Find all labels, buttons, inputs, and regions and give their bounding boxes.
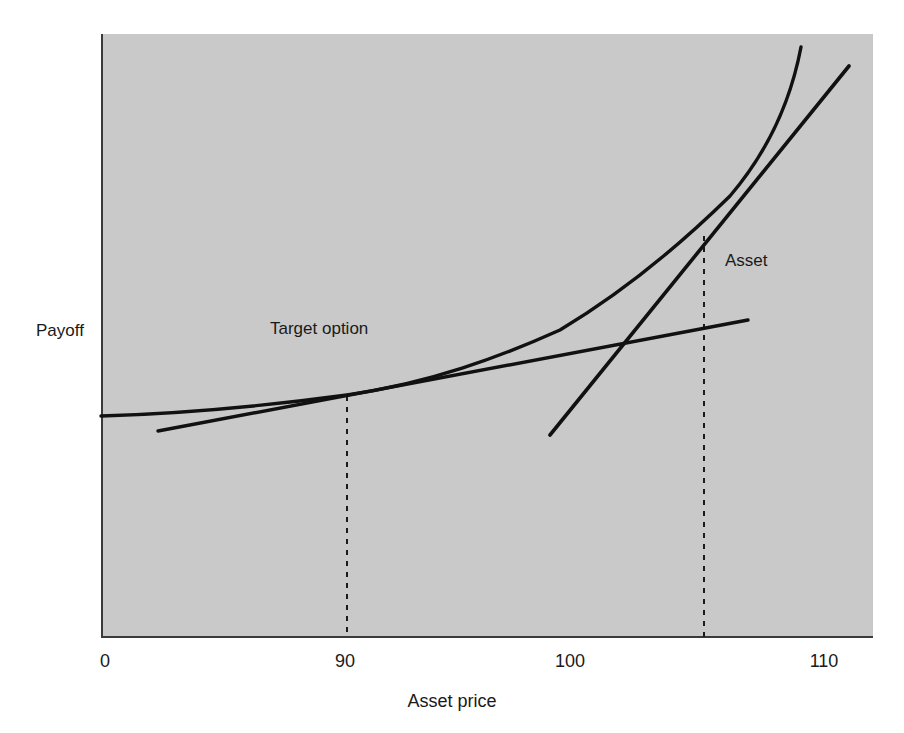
label-target-option: Target option [270, 320, 368, 337]
x-axis-title: Asset price [407, 692, 496, 710]
xtick-label-0: 0 [100, 652, 110, 670]
xtick-label-110: 110 [810, 652, 839, 670]
xtick-label-100: 100 [555, 652, 585, 670]
plot-area [101, 34, 873, 638]
y-axis-label: Payoff [36, 322, 84, 339]
label-asset: Asset [725, 252, 768, 269]
chart-figure: Payoff Target option Asset 0 90 100 110 … [0, 0, 904, 733]
xtick-label-90: 90 [335, 652, 355, 670]
